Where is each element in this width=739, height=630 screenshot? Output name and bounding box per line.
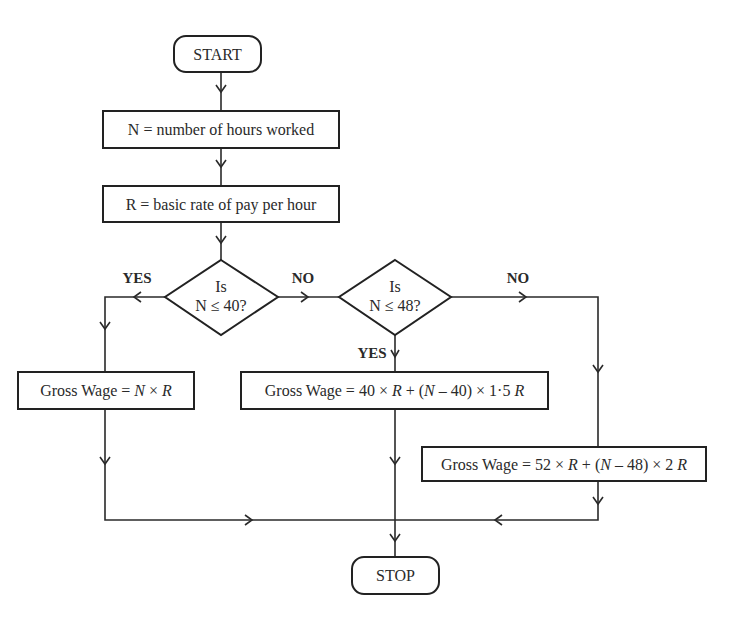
input-rate-label: R = basic rate of pay per hour: [126, 196, 317, 214]
decision-n-le-48: Is N ≤ 48?: [339, 260, 451, 335]
decision2-line1: Is: [389, 278, 401, 295]
wage-overtime-2-formula: Gross Wage = 52 × R + (N – 48) × 2 R: [441, 456, 687, 474]
wage-basic-box: Gross Wage = N × R: [18, 372, 194, 409]
stop-terminal: STOP: [352, 557, 439, 594]
decision1-line2: N ≤ 40?: [195, 297, 246, 314]
wage-overtime-2-box: Gross Wage = 52 × R + (N – 48) × 2 R: [422, 447, 706, 481]
decision1-no-label: NO: [292, 270, 315, 286]
decision2-yes-label: YES: [357, 345, 386, 361]
input-rate-box: R = basic rate of pay per hour: [103, 186, 339, 222]
edge-basic-to-merge: [105, 409, 395, 520]
edge-overtime2-to-merge: [395, 481, 598, 520]
input-hours-label: N = number of hours worked: [128, 121, 314, 138]
wage-overtime-15-box: Gross Wage = 40 × R + (N – 40) × 1·5 R: [241, 372, 548, 409]
decision1-line1: Is: [215, 278, 227, 295]
wage-basic-formula: Gross Wage = N × R: [40, 382, 172, 400]
input-hours-box: N = number of hours worked: [103, 111, 339, 148]
decision-n-le-40: Is N ≤ 40?: [165, 260, 278, 335]
decision1-yes-label: YES: [122, 270, 151, 286]
decision2-line2: N ≤ 48?: [369, 297, 420, 314]
decision2-no-label: NO: [507, 270, 530, 286]
wage-overtime-15-formula: Gross Wage = 40 × R + (N – 40) × 1·5 R: [265, 382, 525, 400]
stop-label: STOP: [376, 567, 415, 584]
edge-decision1-yes: [105, 297, 165, 372]
start-terminal: START: [174, 36, 261, 72]
start-label: START: [193, 46, 242, 63]
flowchart: START N = number of hours worked R = bas…: [0, 0, 739, 630]
